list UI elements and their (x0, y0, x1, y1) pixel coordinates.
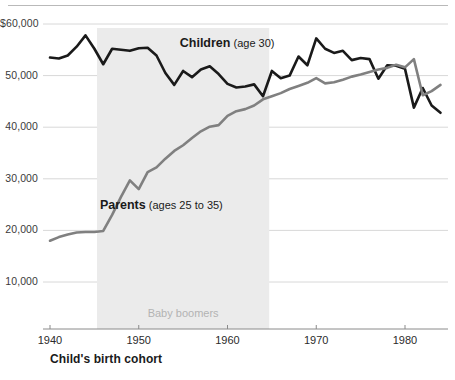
x-tick-label-1970: 1970 (286, 334, 346, 346)
parents-label-main: Parents (100, 198, 146, 212)
y-tick-label-40000: 40,000 (0, 120, 38, 132)
x-axis-title: Child's birth cohort (50, 352, 162, 366)
chart-container: $60,00050,00040,00030,00020,00010,000 19… (0, 0, 455, 380)
chart-plot-area (0, 0, 455, 380)
y-tick-label-60000: $60,000 (0, 17, 38, 29)
y-tick-label-30000: 30,000 (0, 172, 38, 184)
children-label-main: Children (180, 36, 231, 50)
y-tick-label-10000: 10,000 (0, 275, 38, 287)
x-tick-label-1960: 1960 (198, 334, 258, 346)
children-label-sub: (age 30) (230, 37, 274, 49)
x-tick-label-1950: 1950 (109, 334, 169, 346)
x-tick-label-1980: 1980 (375, 334, 435, 346)
baby-boomers-band-label: Baby boomers (143, 307, 223, 319)
y-tick-label-50000: 50,000 (0, 69, 38, 81)
parents-label-sub: (ages 25 to 35) (146, 199, 223, 211)
x-tick-label-1940: 1940 (20, 334, 80, 346)
parents-label: Parents (ages 25 to 35) (100, 198, 223, 212)
y-tick-label-20000: 20,000 (0, 223, 38, 235)
children-label: Children (age 30) (180, 36, 275, 50)
